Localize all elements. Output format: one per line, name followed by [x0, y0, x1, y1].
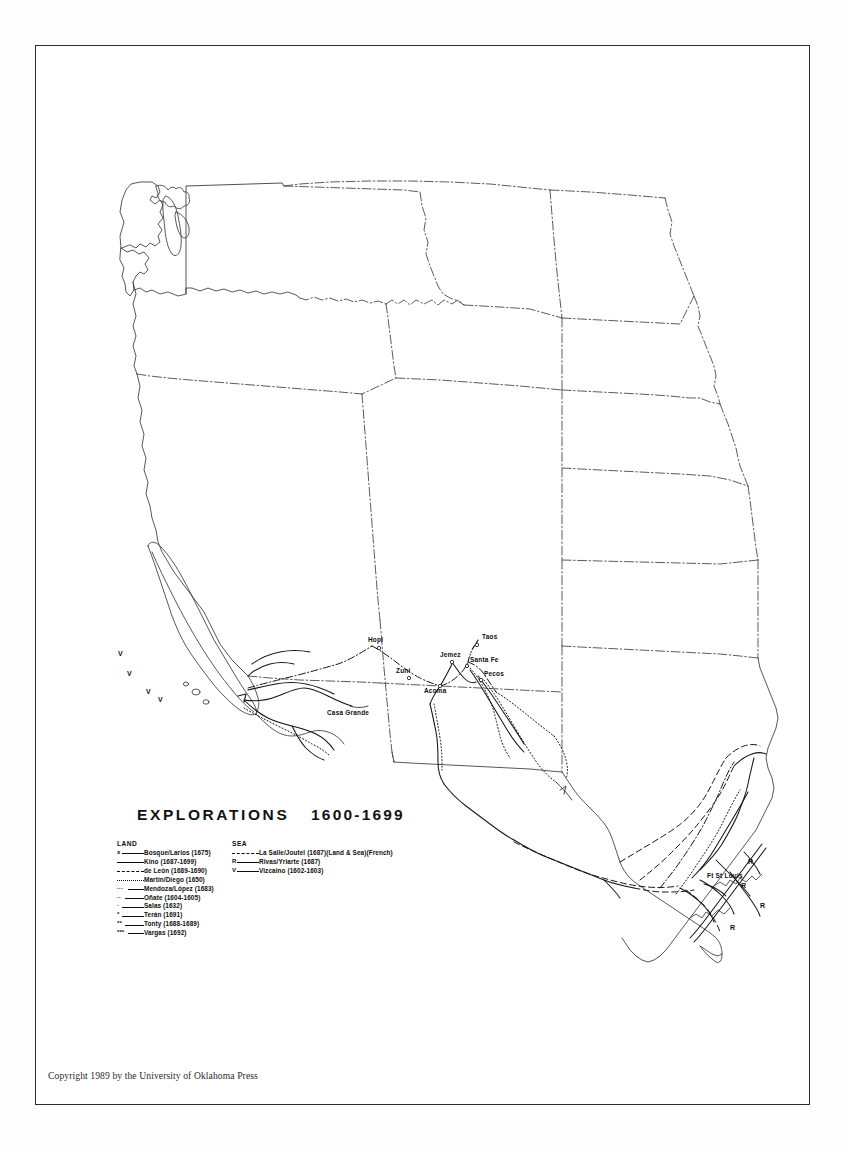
- place-dot: [377, 646, 380, 649]
- place-dot: [450, 660, 453, 663]
- legend-entry: xBosque/Larios (1675): [117, 849, 211, 858]
- legend-entry: *Terán (1691): [117, 911, 182, 920]
- legend-symbol-doubledot-line: ··: [117, 894, 144, 903]
- legend-entry: RRivas/Yriarte (1687): [232, 858, 320, 867]
- sea-marker-v: V: [118, 650, 123, 657]
- place-label-jemez: Jemez: [440, 651, 461, 658]
- legend-entry-label: Rivas/Yriarte (1687): [259, 858, 320, 865]
- legend-symbol-dot-line: ·: [117, 902, 144, 911]
- legend-entry-label: de León (1689-1690): [144, 867, 207, 874]
- copyright-notice: Copyright 1989 by the University of Okla…: [48, 1070, 258, 1081]
- legend-entry-label: Oñate (1604-1605): [144, 894, 200, 901]
- map-title: EXPLORATIONS: [137, 806, 289, 824]
- place-label-ft-st-louis: Ft St Louis: [707, 872, 743, 879]
- sea-marker-r: R: [741, 882, 746, 889]
- sea-marker-v: V: [146, 688, 151, 695]
- place-label-pecos: Pecos: [484, 670, 504, 677]
- legend-symbol-dash: [117, 867, 144, 876]
- legend-symbol-V: V: [232, 867, 259, 876]
- place-label-santa-fe: Santa Fe: [470, 656, 499, 663]
- legend-entry: Kino (1687-1699): [117, 858, 196, 867]
- legend-symbol-line: [117, 858, 144, 867]
- legend-entry-label: Terán (1691): [144, 911, 182, 918]
- legend-entry: VVizcaino (1602-1603): [232, 867, 323, 876]
- place-label-zuni: Zuni: [396, 667, 411, 674]
- legend-entry: **Tonty (1688-1689): [117, 920, 199, 929]
- legend-entry: ··Oñate (1604-1605): [117, 894, 200, 903]
- legend-entry-label: Salas (1632): [144, 902, 182, 909]
- legend-entry-label: Bosque/Larios (1675): [144, 849, 211, 856]
- sea-marker-r: R: [748, 858, 753, 865]
- legend-sea-heading: SEA: [232, 840, 247, 847]
- place-dot: [475, 643, 478, 646]
- legend-entry: ***Vargas (1692): [117, 929, 187, 938]
- legend-entry-label: Vargas (1692): [144, 929, 187, 936]
- legend-land-heading: LAND: [117, 840, 137, 847]
- map-drawing: .coast{fill:none;stroke:#3a3a3a;stroke-w…: [0, 0, 845, 1155]
- legend-entry-label: Martín/Diego (1650): [144, 876, 205, 883]
- place-label-acoma: Acoma: [424, 687, 447, 694]
- sea-marker-r: R: [760, 902, 765, 909]
- sea-marker-r: R: [730, 924, 735, 931]
- legend-entry-label: La Salle/Joutel (1687)(Land & Sea)(Frenc…: [259, 849, 393, 856]
- legend-entry-label: Kino (1687-1699): [144, 858, 196, 865]
- legend-entry-label: Vizcaino (1602-1603): [259, 867, 323, 874]
- page-canvas: .coast{fill:none;stroke:#3a3a3a;stroke-w…: [0, 0, 845, 1155]
- legend-entry: ···Mendoza/López (1683): [117, 885, 214, 894]
- place-label-casa-grande: Casa Grande: [327, 709, 369, 716]
- legend-entry-label: Mendoza/López (1683): [144, 885, 214, 892]
- legend-symbol-triplestar-line: ***: [117, 929, 144, 938]
- place-dot: [407, 676, 410, 679]
- place-label-taos: Taos: [482, 633, 497, 640]
- place-dot: [465, 664, 468, 667]
- sea-marker-v: V: [158, 696, 163, 703]
- legend-entry: Martín/Diego (1650): [117, 876, 205, 885]
- legend-entry: La Salle/Joutel (1687)(Land & Sea)(Frenc…: [232, 849, 393, 858]
- legend-entry-label: Tonty (1688-1689): [144, 920, 199, 927]
- legend-entry: ·Salas (1632): [117, 902, 182, 911]
- legend-entry: de León (1689-1690): [117, 867, 207, 876]
- map-date-range: 1600-1699: [311, 806, 405, 824]
- legend-symbol-x: x: [117, 849, 144, 858]
- place-dot: [479, 678, 482, 681]
- place-label-hopi: Hopi: [368, 636, 383, 643]
- sea-marker-v: V: [127, 670, 132, 677]
